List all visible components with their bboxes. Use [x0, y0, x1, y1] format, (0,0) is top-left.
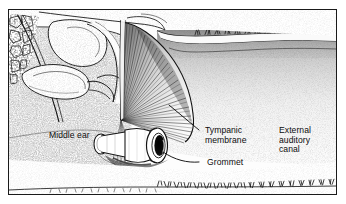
- grommet-lumen: [154, 135, 164, 156]
- ear-anatomy-illustration: [9, 10, 336, 194]
- illustration-frame: Middle ear Tympanicmembrane Grommet Exte…: [8, 9, 337, 195]
- grommet-lateral-flange: [125, 128, 168, 163]
- grommet-barrel: [101, 132, 125, 157]
- figure-root: Middle ear Tympanicmembrane Grommet Exte…: [0, 0, 346, 204]
